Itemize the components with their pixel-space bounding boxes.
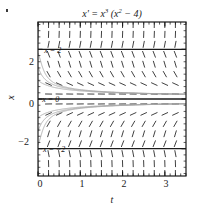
equilibrium-label-x-eq-neg2: x = −2 (42, 145, 65, 154)
svg-text:x = 2: x = 2 (43, 46, 61, 55)
x-tick-label-0: 0 (33, 178, 47, 189)
solution-curve (38, 104, 186, 145)
page-speck (6, 9, 8, 12)
equilibrium-annotations: x = 2x = 0x = −2 (41, 46, 65, 154)
slope-field-marks (45, 21, 179, 177)
equilibrium-label-x-eq-2: x = 2 (43, 46, 61, 55)
axes-frame (38, 22, 186, 176)
y-axis-title: x (5, 91, 16, 105)
title-suffix: − 4) (122, 8, 142, 19)
slope-field-figure: x' = x3 (x2 − 4) 2 0 −2 0 1 2 3 x t x = … (0, 0, 198, 211)
plot-title: x' = x3 (x2 − 4) (38, 5, 186, 20)
y-tick-label-2: 2 (18, 56, 34, 67)
solution-curve (38, 53, 186, 94)
x-tick-label-2: 2 (117, 178, 131, 189)
svg-text:x = 0: x = 0 (41, 95, 59, 104)
solution-curve (38, 104, 186, 132)
equilibrium-label-x-eq-0: x = 0 (41, 95, 59, 104)
svg-text:x = −2: x = −2 (42, 145, 65, 154)
title-prefix: x' = x (82, 8, 105, 19)
solution-curve (38, 104, 186, 118)
solution-curves (38, 7, 186, 191)
equilibrium-lines (38, 49, 186, 148)
x-tick-label-3: 3 (159, 178, 173, 189)
solution-curve (38, 80, 186, 94)
y-tick-label-neg2: −2 (13, 136, 29, 147)
title-mid: (x (108, 8, 118, 19)
y-tick-label-0: 0 (18, 98, 34, 109)
solution-curve (38, 67, 186, 95)
x-tick-label-1: 1 (75, 178, 89, 189)
x-axis-title: t (105, 194, 119, 205)
